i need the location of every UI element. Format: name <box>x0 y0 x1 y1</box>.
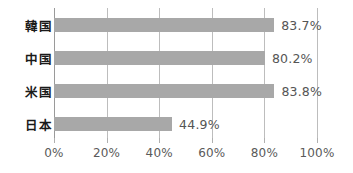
x-tick-mark <box>264 138 265 143</box>
bar <box>54 18 274 32</box>
category-label: 米国 <box>25 82 52 101</box>
plot-area: 83.7%80.2%83.8%44.9% <box>54 8 317 138</box>
bar-row: 83.7% <box>54 18 317 32</box>
bar-value-label: 83.8% <box>281 84 322 99</box>
bar-chart: 83.7%80.2%83.8%44.9% 韓国中国米国日本 0%20%40%60… <box>0 0 353 173</box>
category-label: 韓国 <box>25 16 52 35</box>
x-tick-label: 80% <box>251 146 278 160</box>
x-tick-mark <box>107 138 108 143</box>
bar-row: 83.8% <box>54 84 317 98</box>
category-label: 日本 <box>25 115 52 134</box>
x-tick-mark <box>54 138 55 143</box>
bar-value-label: 44.9% <box>179 117 220 132</box>
bar-row: 44.9% <box>54 117 317 131</box>
x-tick-label: 60% <box>198 146 225 160</box>
bar-value-label: 80.2% <box>272 51 313 66</box>
bar-value-label: 83.7% <box>281 18 322 33</box>
x-tick-mark <box>212 138 213 143</box>
bar-row: 80.2% <box>54 51 317 65</box>
bar <box>54 84 274 98</box>
bar <box>54 117 172 131</box>
category-label: 中国 <box>25 49 52 68</box>
x-tick-label: 100% <box>299 146 334 160</box>
x-axis: 0%20%40%60%80%100% <box>54 138 317 168</box>
x-tick-label: 40% <box>146 146 173 160</box>
x-tick-mark <box>159 138 160 143</box>
x-tick-label: 0% <box>44 146 63 160</box>
x-tick-label: 20% <box>93 146 120 160</box>
bar <box>54 51 265 65</box>
x-tick-mark <box>317 138 318 143</box>
